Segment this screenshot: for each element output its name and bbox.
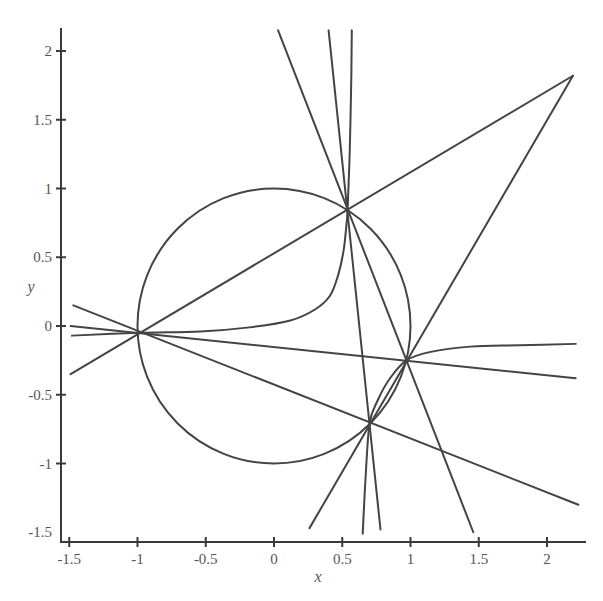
y-tick-label: 0 [45,318,53,334]
y-tick-label: -0.5 [28,387,52,403]
x-tick-label: 0 [270,551,278,567]
line-a-c [71,326,576,378]
axes [60,28,586,542]
line-b-c [278,30,473,532]
line-a-b-e [71,76,573,374]
y-tick-label: 1 [45,181,53,197]
x-axis-label: x [313,568,321,585]
x-tick-label: 0.5 [333,551,352,567]
y-tick-label: -1 [40,456,53,472]
plot-geometry [71,30,579,533]
curve-branch-2-through-d-and-c [363,344,576,534]
y-axis-label: y [25,278,35,296]
y-tick-label: 1.5 [33,112,52,128]
x-tick-label: -1.5 [57,551,81,567]
line-a-d [73,305,578,504]
y-tick-label: 2 [45,43,53,59]
y-tick-label: -1.5 [28,524,52,540]
chart-canvas: -1.5-1-0.500.511.52 -1.5-1-0.500.511.52 … [0,0,603,601]
y-tick-label: 0.5 [33,249,52,265]
x-tick-label: 1 [407,551,415,567]
x-tick-label: 2 [543,551,551,567]
x-tick-label: -1 [131,551,144,567]
x-tick-label: 1.5 [469,551,488,567]
x-tick-label: -0.5 [194,551,218,567]
